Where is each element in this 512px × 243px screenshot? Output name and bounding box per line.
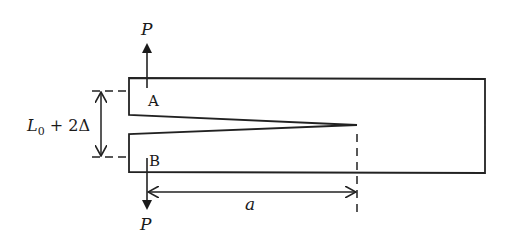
crack-length-label: a (245, 194, 255, 214)
force-label-top: P (140, 19, 153, 39)
specimen-outline (129, 78, 485, 173)
force-label-bottom: P (139, 214, 152, 234)
point-label-a: A (147, 92, 159, 110)
dcb-diagram: P P A B L0 + 2Δ a (0, 0, 512, 243)
point-label-b: B (149, 152, 160, 170)
opening-dimension-label: L0 + 2Δ (26, 116, 90, 138)
